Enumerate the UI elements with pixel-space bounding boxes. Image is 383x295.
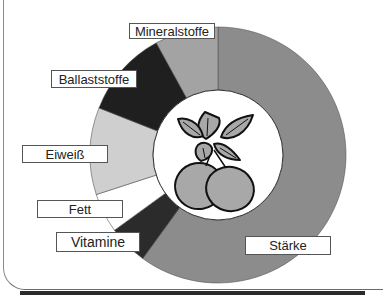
label-mineralstoffe: Mineralstoffe bbox=[129, 23, 215, 39]
label-ballaststoffe: Ballaststoffe bbox=[51, 70, 137, 88]
label-eiweiss: Eiweiß bbox=[22, 145, 108, 163]
label-staerke: Stärke bbox=[245, 236, 331, 255]
label-vitamine: Vitamine bbox=[56, 232, 140, 252]
label-fett: Fett bbox=[37, 200, 123, 218]
